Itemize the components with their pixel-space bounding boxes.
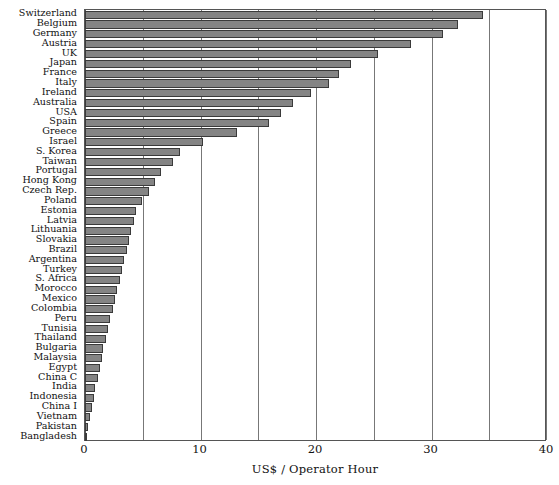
bar[interactable] [85,276,120,284]
bar-row[interactable] [85,275,545,285]
bar-row[interactable] [85,197,545,207]
bar-row[interactable] [85,118,545,128]
bar-row[interactable] [85,216,545,226]
bar-row[interactable] [85,363,545,373]
bar[interactable] [85,158,173,166]
bar-row[interactable] [85,383,545,393]
x-tick-label-30: 30 [423,443,438,456]
bar-row[interactable] [85,206,545,216]
bar[interactable] [85,403,92,411]
bar[interactable] [85,305,113,313]
bar[interactable] [85,344,103,352]
bar[interactable] [85,138,203,146]
bar-row[interactable] [85,98,545,108]
bar[interactable] [85,70,339,78]
bar-row[interactable] [85,89,545,99]
bar-row[interactable] [85,20,545,30]
bar[interactable] [85,187,149,195]
bar-row[interactable] [85,246,545,256]
bar[interactable] [85,423,88,431]
bar-row[interactable] [85,422,545,432]
bar-row[interactable] [85,393,545,403]
bar[interactable] [85,227,131,235]
bar[interactable] [85,197,142,205]
bar[interactable] [85,168,161,176]
bar[interactable] [85,394,94,402]
bar-row[interactable] [85,236,545,246]
bar[interactable] [85,207,136,215]
bar[interactable] [85,236,129,244]
bar-row[interactable] [85,314,545,324]
bar-row[interactable] [85,10,545,20]
bar-row[interactable] [85,432,545,442]
bar-row[interactable] [85,413,545,423]
bar-row[interactable] [85,147,545,157]
bar[interactable] [85,20,458,28]
bar-row[interactable] [85,255,545,265]
bar-row[interactable] [85,226,545,236]
bar-row[interactable] [85,69,545,79]
bar-row[interactable] [85,344,545,354]
bar-row[interactable] [85,295,545,305]
bar-row[interactable] [85,403,545,413]
bar-row[interactable] [85,373,545,383]
x-tick-label-40: 40 [539,443,554,456]
bar[interactable] [85,256,124,264]
bar[interactable] [85,79,329,87]
bar-row[interactable] [85,334,545,344]
x-tick-label-10: 10 [192,443,207,456]
x-axis-title: US$ / Operator Hour [84,462,546,476]
bars-layer [85,10,545,440]
bar[interactable] [85,315,110,323]
bar[interactable] [85,413,90,421]
bar-row[interactable] [85,59,545,69]
bar[interactable] [85,335,106,343]
bar[interactable] [85,374,98,382]
bar-row[interactable] [85,30,545,40]
bar[interactable] [85,128,237,136]
bar[interactable] [85,40,411,48]
bar[interactable] [85,295,115,303]
bar-row[interactable] [85,187,545,197]
bar-row[interactable] [85,354,545,364]
plot-area [84,9,546,441]
bar-row[interactable] [85,49,545,59]
bar[interactable] [85,99,293,107]
bar-row[interactable] [85,324,545,334]
bar[interactable] [85,325,108,333]
bar-chart: SwitzerlandBelgiumGermanyAustriaUKJapanF… [0,0,559,485]
bar[interactable] [85,364,100,372]
bar[interactable] [85,89,311,97]
bar-row[interactable] [85,265,545,275]
bar-row[interactable] [85,128,545,138]
bar[interactable] [85,217,134,225]
bar[interactable] [85,148,180,156]
bar-row[interactable] [85,157,545,167]
bar[interactable] [85,286,117,294]
bar[interactable] [85,266,122,274]
bar-row[interactable] [85,108,545,118]
x-tick-label-20: 20 [308,443,323,456]
bar[interactable] [85,119,269,127]
x-tick-label-0: 0 [80,443,87,456]
bar[interactable] [85,433,87,441]
bar[interactable] [85,60,351,68]
bar[interactable] [85,30,443,38]
gridline-40 [546,10,547,440]
bar[interactable] [85,246,127,254]
bar[interactable] [85,384,95,392]
value-axis-ticks: 010203040 [84,443,546,461]
bar-row[interactable] [85,285,545,295]
bar-row[interactable] [85,177,545,187]
bar[interactable] [85,354,102,362]
bar[interactable] [85,109,281,117]
category-axis-labels: SwitzerlandBelgiumGermanyAustriaUKJapanF… [0,9,80,441]
bar[interactable] [85,178,155,186]
bar[interactable] [85,50,378,58]
bar[interactable] [85,11,483,19]
bar-row[interactable] [85,167,545,177]
bar-row[interactable] [85,79,545,89]
bar-row[interactable] [85,305,545,315]
bar-row[interactable] [85,39,545,49]
bar-row[interactable] [85,138,545,148]
